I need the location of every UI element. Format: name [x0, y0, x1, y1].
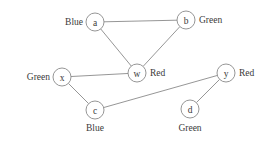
- graph-figure: abwxycd BlueGreenRedGreenRedBlueGreen: [0, 0, 275, 146]
- graph-edge-x-c: [68, 83, 88, 103]
- graph-node-label-w: w: [134, 69, 141, 79]
- node-color-label-w: Red: [150, 68, 166, 78]
- node-color-label-b: Green: [199, 15, 222, 25]
- graph-edge-a-b: [104, 20, 177, 22]
- graph-node-label-y: y: [224, 69, 229, 79]
- graph-edge-x-w: [71, 73, 128, 76]
- node-color-label-x: Green: [27, 72, 50, 82]
- node-color-label-y: Red: [239, 68, 255, 78]
- edges-group: [68, 20, 219, 107]
- graph-canvas: abwxycd BlueGreenRedGreenRedBlueGreen: [0, 0, 275, 146]
- graph-edge-c-y: [104, 75, 218, 107]
- graph-node-label-c: c: [93, 106, 97, 116]
- graph-edge-a-w: [101, 29, 132, 66]
- node-color-label-c: Blue: [86, 123, 104, 133]
- graph-edge-b-w: [143, 27, 180, 67]
- node-color-label-d: Green: [178, 123, 201, 133]
- graph-node-label-x: x: [60, 73, 65, 83]
- graph-node-label-d: d: [188, 105, 193, 115]
- node-color-label-a: Blue: [65, 17, 83, 27]
- graph-node-label-b: b: [184, 16, 189, 26]
- graph-edge-d-y: [196, 79, 219, 102]
